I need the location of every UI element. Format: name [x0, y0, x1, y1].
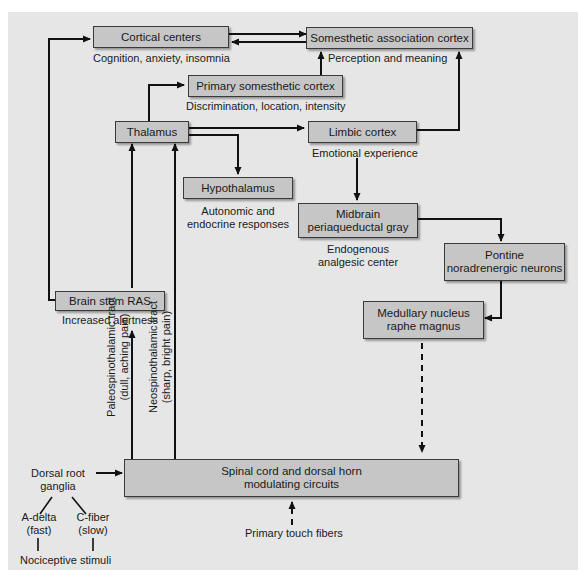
node-spinal-cord-dorsal-horn: Spinal cord and dorsal horn modulating c… — [124, 459, 459, 497]
node-label: noradrenergic neurons — [447, 262, 563, 275]
node-label: Midbrain — [307, 208, 408, 221]
caption-cortical-centers: Cognition, anxiety, insomnia — [93, 52, 229, 65]
node-limbic-cortex: Limbic cortex — [308, 121, 417, 143]
node-midbrain-periaqueductal-gray: Midbrain periaqueductal gray — [298, 203, 418, 238]
node-label: Spinal cord and dorsal horn — [221, 465, 362, 478]
node-label: Pontine — [447, 249, 563, 262]
label-neospinothalamic-tract: Neospinothalamic tract (sharp, bright pa… — [147, 262, 173, 452]
node-medullary-nucleus-raphe-magnus: Medullary nucleus raphe magnus — [363, 301, 484, 339]
arrow-pontine-to-medullary — [485, 281, 501, 318]
node-label: Thalamus — [127, 126, 178, 139]
node-label: Cortical centers — [121, 31, 201, 44]
node-pontine-noradrenergic-neurons: Pontine noradrenergic neurons — [444, 243, 565, 281]
node-label: Somesthetic association cortex — [310, 32, 469, 45]
label-nociceptive-stimuli: Nociceptive stimuli — [20, 554, 111, 567]
node-hypothalamus: Hypothalamus — [183, 177, 293, 199]
node-thalamus: Thalamus — [115, 121, 189, 143]
label-primary-touch-fibers: Primary touch fibers — [245, 527, 343, 540]
arrow-thalamus-to-hypothalamus — [189, 135, 238, 174]
arrow-midbrain-to-pontine — [418, 219, 501, 241]
caption-midbrain: Endogenous analgesic center — [298, 243, 418, 269]
node-label: Medullary nucleus — [377, 307, 470, 320]
node-cortical-centers: Cortical centers — [93, 26, 229, 48]
node-label: Primary somesthetic cortex — [196, 80, 335, 93]
label-paleospinothalamic-tract: Paleospinothalamic tract (dull, aching p… — [105, 262, 131, 452]
caption-hypothalamus: Autonomic and endocrine responses — [183, 205, 293, 231]
caption-somesthetic-association: Perception and meaning — [328, 52, 447, 65]
node-label: modulating circuits — [221, 478, 362, 491]
arrow-ras-to-cortical — [49, 39, 90, 300]
caption-limbic-cortex: Emotional experience — [312, 147, 418, 160]
label-c-fiber: C-fiber (slow) — [70, 511, 116, 537]
label-a-delta: A-delta (fast) — [16, 511, 62, 537]
arrow-thalamus-to-primary — [149, 85, 184, 121]
node-label: raphe magnus — [377, 320, 470, 333]
caption-primary-somesthetic: Discrimination, location, intensity — [186, 100, 346, 113]
label-dorsal-root-ganglia: Dorsal root ganglia — [22, 467, 94, 493]
node-label: Hypothalamus — [201, 182, 275, 195]
node-label: Limbic cortex — [329, 126, 397, 139]
node-primary-somesthetic-cortex: Primary somesthetic cortex — [188, 75, 343, 97]
node-somesthetic-association-cortex: Somesthetic association cortex — [306, 27, 473, 49]
node-label: periaqueductal gray — [307, 221, 408, 234]
